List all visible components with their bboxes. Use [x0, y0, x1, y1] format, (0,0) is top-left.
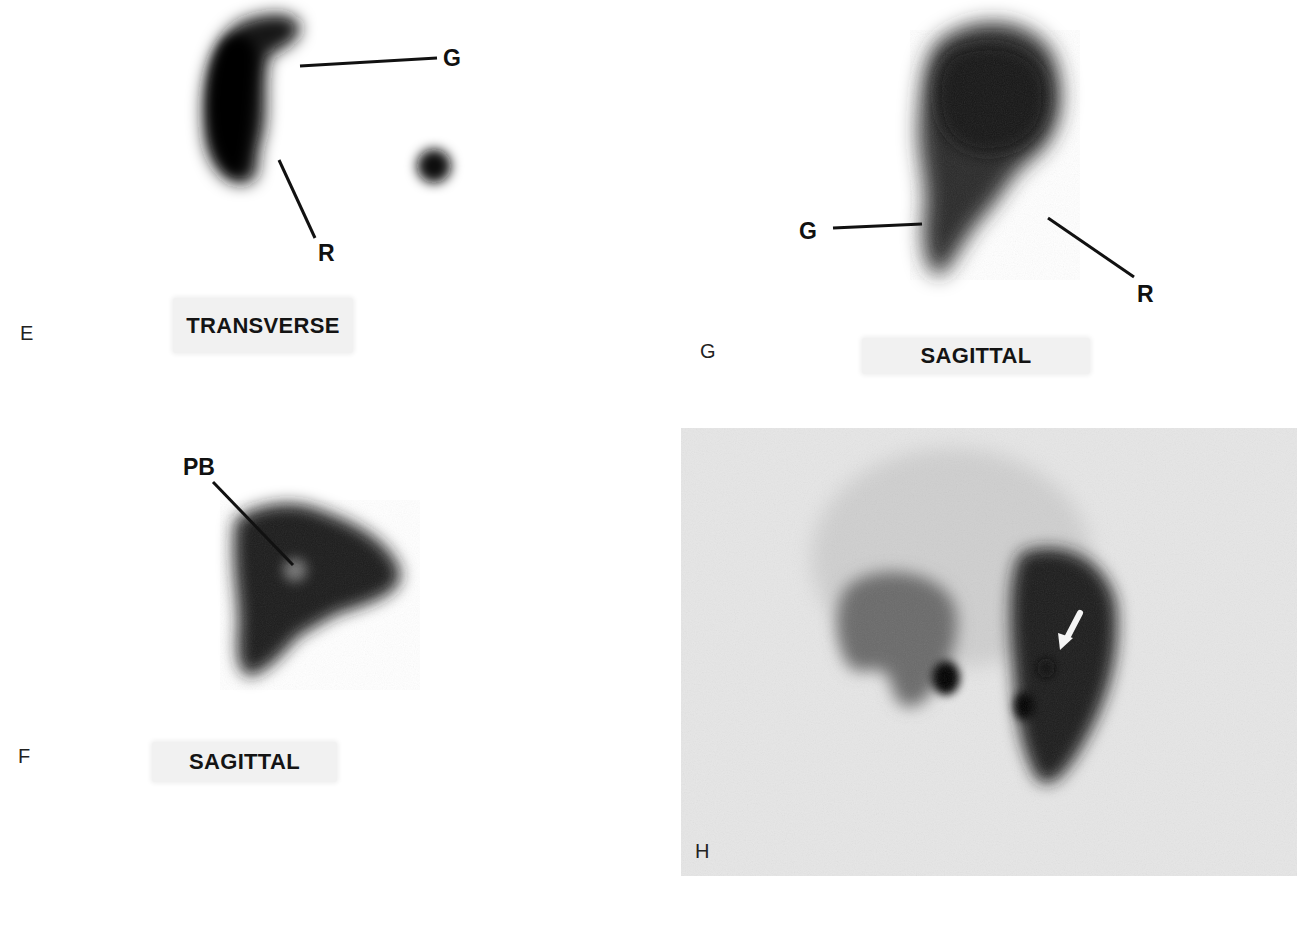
planar-scan-image-h: [681, 428, 1297, 876]
panel-letter-e: E: [20, 322, 33, 345]
annotation-pb: PB: [183, 454, 215, 481]
panel-letter-f: F: [18, 745, 30, 768]
caption-text: SAGITTAL: [189, 749, 300, 775]
panel-f: PB SAGITTAL F: [0, 400, 650, 820]
panel-h: H: [681, 428, 1297, 876]
caption-sagittal-g: SAGITTAL: [862, 338, 1090, 374]
panel-g: G R SAGITTAL G: [650, 0, 1297, 400]
caption-text: SAGITTAL: [921, 343, 1032, 369]
panel-letter-h: H: [695, 840, 709, 863]
annotation-r: R: [318, 240, 335, 267]
annotation-g: G: [443, 45, 461, 72]
caption-sagittal-f: SAGITTAL: [152, 742, 337, 782]
panel-e: G R TRANSVERSE E: [0, 0, 650, 380]
panel-letter-g: G: [700, 340, 716, 363]
annotation-g: G: [799, 218, 817, 245]
annotation-r: R: [1137, 281, 1154, 308]
caption-transverse: TRANSVERSE: [173, 298, 353, 353]
caption-text: TRANSVERSE: [186, 313, 339, 339]
